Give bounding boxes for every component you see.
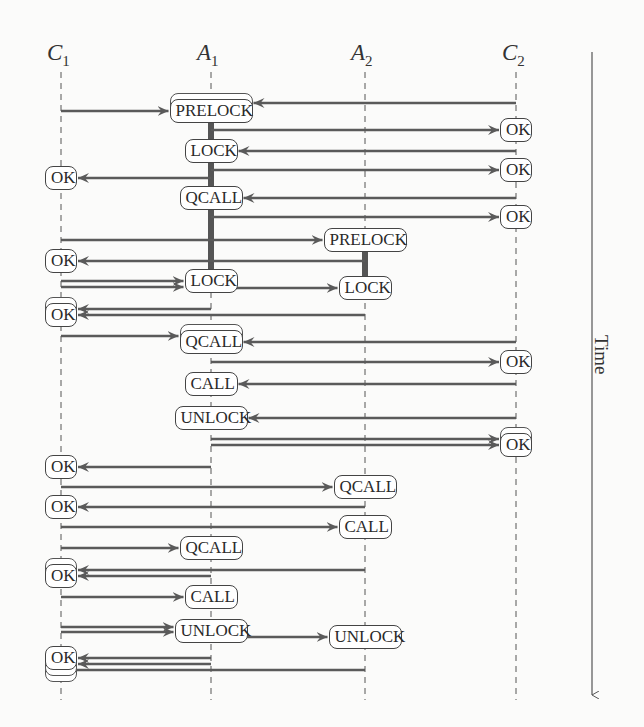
message-box-ok: OK bbox=[45, 646, 77, 670]
message-box-prelock: PRELOCK bbox=[170, 99, 253, 123]
message-box-ok: OK bbox=[45, 303, 77, 327]
message-box-ok: OK bbox=[500, 158, 532, 182]
message-box-ok: OK bbox=[45, 166, 77, 190]
message-box-qcall: QCALL bbox=[180, 186, 243, 210]
lifeline-header-c2: C2 bbox=[502, 40, 525, 70]
message-box-qcall: QCALL bbox=[334, 475, 397, 499]
message-box-ok: OK bbox=[500, 118, 532, 142]
message-box-ok: OK bbox=[500, 433, 532, 457]
lifeline-header-a2: A2 bbox=[351, 40, 373, 70]
message-box-prelock: PRELOCK bbox=[324, 228, 407, 252]
lifeline-header-c1: C1 bbox=[47, 40, 70, 70]
lock-bar bbox=[362, 252, 368, 276]
message-box-ok: OK bbox=[45, 495, 77, 519]
message-box-ok: OK bbox=[500, 350, 532, 374]
sequence-diagram bbox=[0, 0, 644, 727]
message-box-ok: OK bbox=[45, 249, 77, 273]
message-box-ok: OK bbox=[500, 205, 532, 229]
message-box-lock: LOCK bbox=[339, 276, 392, 300]
message-box-call: CALL bbox=[185, 585, 238, 609]
time-axis-label: Time bbox=[590, 335, 612, 374]
message-box-qcall: QCALL bbox=[180, 536, 243, 560]
message-box-lock: LOCK bbox=[185, 139, 238, 163]
message-box-call: CALL bbox=[339, 515, 392, 539]
message-box-call: CALL bbox=[185, 372, 238, 396]
message-box-ok: OK bbox=[45, 564, 77, 588]
messages bbox=[61, 103, 516, 670]
message-box-unlock: UNLOCK bbox=[329, 625, 402, 649]
lifelines bbox=[61, 72, 516, 700]
message-box-unlock: UNLOCK bbox=[175, 406, 248, 430]
message-box-unlock: UNLOCK bbox=[175, 619, 248, 643]
message-box-ok: OK bbox=[45, 455, 77, 479]
lifeline-header-a1: A1 bbox=[197, 40, 219, 70]
message-box-qcall: QCALL bbox=[180, 330, 243, 354]
message-box-lock: LOCK bbox=[185, 269, 238, 293]
